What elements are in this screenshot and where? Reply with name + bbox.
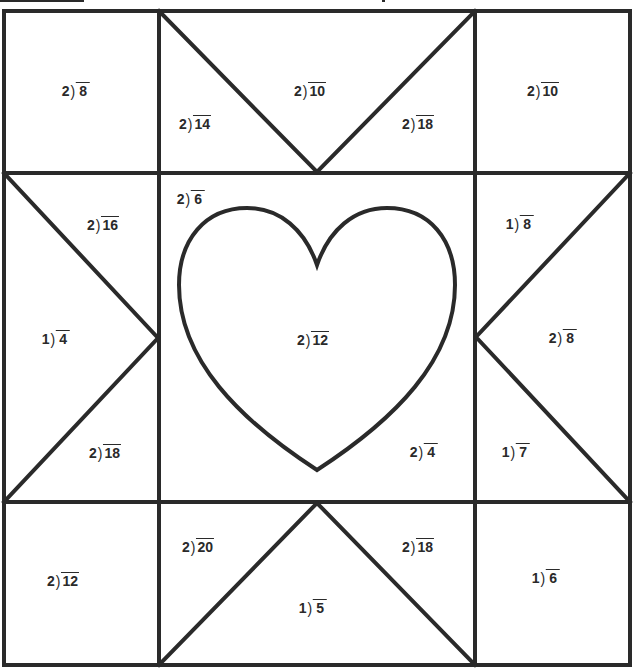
divisor: 1 bbox=[42, 332, 51, 346]
division-problem-top-right-square: 2)10 bbox=[527, 82, 559, 98]
divisor: 2 bbox=[87, 218, 96, 232]
dividend: 18 bbox=[416, 115, 434, 131]
division-problem-middle-right-bottom-triangle: 1)7 bbox=[502, 443, 530, 459]
divisor: 2 bbox=[549, 331, 558, 345]
long-division-bracket-icon: ) bbox=[56, 573, 61, 589]
division-problem-middle-left-top-triangle: 2)16 bbox=[87, 216, 119, 232]
long-division-bracket-icon: ) bbox=[558, 330, 563, 346]
dividend: 8 bbox=[76, 82, 90, 98]
divisor: 1 bbox=[502, 445, 511, 459]
long-division-bracket-icon: ) bbox=[541, 570, 546, 586]
long-division-bracket-icon: ) bbox=[191, 539, 196, 555]
division-problem-bottom-right-square: 1)6 bbox=[532, 569, 560, 585]
divisor: 1 bbox=[532, 571, 541, 585]
divisor: 2 bbox=[62, 84, 71, 98]
division-problem-center-heart: 2)12 bbox=[297, 331, 329, 347]
division-problem-middle-left-bottom-triangle: 2)18 bbox=[89, 444, 121, 460]
division-problem-top-middle-top-triangle: 2)10 bbox=[294, 82, 326, 98]
division-problem-top-left-square: 2)8 bbox=[62, 82, 90, 98]
long-division-bracket-icon: ) bbox=[303, 83, 308, 99]
division-problem-bottom-middle-left-triangle: 2)20 bbox=[182, 538, 214, 554]
division-problem-bottom-middle-right-triangle: 2)18 bbox=[402, 538, 434, 554]
bottom-flying-geese bbox=[159, 503, 475, 665]
dividend: 7 bbox=[516, 443, 530, 459]
long-division-bracket-icon: ) bbox=[419, 444, 424, 460]
divisor: 2 bbox=[47, 574, 56, 588]
dividend: 4 bbox=[424, 443, 438, 459]
division-problem-middle-right-right-triangle: 2)8 bbox=[549, 329, 577, 345]
dividend: 16 bbox=[101, 216, 119, 232]
divisor: 2 bbox=[177, 192, 186, 206]
division-problem-middle-right-top-triangle: 1)8 bbox=[506, 215, 534, 231]
long-division-bracket-icon: ) bbox=[96, 217, 101, 233]
long-division-bracket-icon: ) bbox=[411, 116, 416, 132]
long-division-bracket-icon: ) bbox=[536, 83, 541, 99]
divisor: 1 bbox=[506, 217, 515, 231]
dividend: 8 bbox=[520, 215, 534, 231]
division-problem-top-middle-right-triangle: 2)18 bbox=[402, 115, 434, 131]
long-division-bracket-icon: ) bbox=[188, 116, 193, 132]
dividend: 12 bbox=[311, 331, 329, 347]
division-problem-bottom-left-square: 2)12 bbox=[47, 572, 79, 588]
dividend: 20 bbox=[196, 538, 214, 554]
long-division-bracket-icon: ) bbox=[308, 600, 313, 616]
dividend: 5 bbox=[313, 599, 327, 615]
dividend: 6 bbox=[546, 569, 560, 585]
long-division-bracket-icon: ) bbox=[306, 332, 311, 348]
dividend: 6 bbox=[191, 190, 205, 206]
divisor: 2 bbox=[527, 84, 536, 98]
dividend: 14 bbox=[193, 115, 211, 131]
long-division-bracket-icon: ) bbox=[98, 445, 103, 461]
long-division-bracket-icon: ) bbox=[186, 191, 191, 207]
dividend: 4 bbox=[56, 330, 70, 346]
divisor: 2 bbox=[402, 117, 411, 131]
long-division-bracket-icon: ) bbox=[71, 83, 76, 99]
dividend: 18 bbox=[103, 444, 121, 460]
dividend: 18 bbox=[416, 538, 434, 554]
divisor: 2 bbox=[297, 333, 306, 347]
long-division-bracket-icon: ) bbox=[51, 331, 56, 347]
left-flying-geese bbox=[4, 173, 158, 502]
divisor: 2 bbox=[179, 117, 188, 131]
divisor: 1 bbox=[299, 601, 308, 615]
dividend: 10 bbox=[308, 82, 326, 98]
dividend: 12 bbox=[61, 572, 79, 588]
divisor: 2 bbox=[294, 84, 303, 98]
long-division-bracket-icon: ) bbox=[411, 539, 416, 555]
long-division-bracket-icon: ) bbox=[515, 216, 520, 232]
long-division-bracket-icon: ) bbox=[511, 444, 516, 460]
division-problem-middle-left-left-triangle: 1)4 bbox=[42, 330, 70, 346]
dividend: 8 bbox=[563, 329, 577, 345]
divisor: 2 bbox=[410, 445, 419, 459]
divisor: 2 bbox=[402, 540, 411, 554]
divisor: 2 bbox=[89, 446, 98, 460]
divisor: 2 bbox=[182, 540, 191, 554]
division-problem-center-corner-bottom-right: 2)4 bbox=[410, 443, 438, 459]
division-problem-bottom-middle-bottom-triangle: 1)5 bbox=[299, 599, 327, 615]
dividend: 10 bbox=[541, 82, 559, 98]
division-problem-center-corner-top-left: 2)6 bbox=[177, 190, 205, 206]
division-problem-top-middle-left-triangle: 2)14 bbox=[179, 115, 211, 131]
